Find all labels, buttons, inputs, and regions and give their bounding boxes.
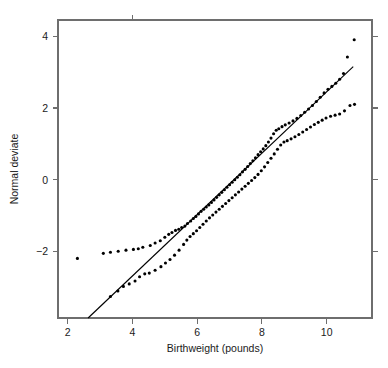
- y-tick-label: 4: [42, 30, 48, 42]
- x-tick-label: 8: [259, 326, 265, 338]
- data-point: [321, 119, 324, 122]
- data-series: [109, 103, 356, 298]
- data-point: [313, 123, 316, 126]
- x-tick-label: 4: [130, 326, 136, 338]
- data-point: [262, 147, 265, 150]
- data-point: [237, 190, 240, 193]
- data-point: [280, 125, 283, 128]
- data-point: [227, 199, 230, 202]
- data-point: [102, 252, 105, 255]
- x-axis-ticks: 246810: [65, 15, 333, 339]
- data-point: [211, 213, 214, 216]
- y-tick-label: −2: [36, 245, 48, 257]
- data-point: [284, 123, 287, 126]
- data-point: [178, 249, 181, 252]
- data-point: [133, 279, 136, 282]
- data-point: [208, 216, 211, 219]
- data-point: [128, 282, 131, 285]
- data-point: [159, 265, 162, 268]
- data-point: [164, 262, 167, 265]
- data-point: [338, 113, 341, 116]
- plot-frame: [58, 20, 372, 318]
- data-point: [205, 220, 208, 223]
- y-tick-label: 0: [42, 174, 48, 186]
- data-point: [137, 247, 140, 250]
- data-point: [201, 223, 204, 226]
- x-tick-label: 6: [194, 326, 200, 338]
- x-axis-title: Birthweight (pounds): [167, 342, 263, 354]
- reference-line-group: [88, 67, 353, 318]
- reference-line: [88, 67, 353, 318]
- data-point: [163, 236, 166, 239]
- data-point: [269, 137, 272, 140]
- data-series: [76, 38, 356, 260]
- data-point: [269, 157, 272, 160]
- x-tick-label: 10: [321, 326, 333, 338]
- data-point: [277, 127, 280, 130]
- data-point: [167, 233, 170, 236]
- data-point: [170, 231, 173, 234]
- data-point: [173, 254, 176, 257]
- y-axis-title: Normal deviate: [8, 134, 20, 205]
- data-point: [290, 137, 293, 140]
- data-point: [343, 109, 346, 112]
- data-point: [189, 235, 192, 238]
- data-point: [267, 141, 270, 144]
- data-point: [192, 232, 195, 235]
- data-point: [257, 173, 260, 176]
- data-point: [276, 148, 279, 151]
- data-point: [301, 130, 304, 133]
- plot-frame-rect: [58, 20, 372, 318]
- data-point: [288, 121, 291, 124]
- data-series-group: [76, 38, 356, 298]
- data-point: [279, 143, 282, 146]
- data-point: [266, 161, 269, 164]
- data-point: [148, 272, 151, 275]
- y-axis-ticks: −2024: [36, 30, 377, 257]
- data-point: [264, 144, 267, 147]
- y-tick-label: 2: [42, 102, 48, 114]
- data-point: [305, 128, 308, 131]
- data-point: [182, 243, 185, 246]
- data-point: [334, 114, 337, 117]
- data-point: [244, 185, 247, 188]
- data-point: [329, 115, 332, 118]
- data-point: [195, 229, 198, 232]
- data-point: [324, 116, 327, 119]
- data-point: [224, 202, 227, 205]
- data-point: [159, 239, 162, 242]
- data-point: [348, 104, 351, 107]
- data-point: [117, 250, 120, 253]
- data-point: [198, 226, 201, 229]
- data-point: [282, 141, 285, 144]
- data-point: [253, 176, 256, 179]
- data-point: [260, 169, 263, 172]
- data-point: [154, 269, 157, 272]
- chart-canvas: 246810 −2024 Birthweight (pounds) Normal…: [0, 0, 388, 368]
- data-point: [221, 205, 224, 208]
- data-point: [174, 229, 177, 232]
- data-point: [297, 133, 300, 136]
- data-point: [309, 125, 312, 128]
- x-tick-label: 2: [65, 326, 71, 338]
- data-point: [168, 258, 171, 261]
- data-point: [149, 244, 152, 247]
- data-point: [109, 251, 112, 254]
- data-point: [234, 193, 237, 196]
- data-point: [154, 241, 157, 244]
- data-point: [273, 152, 276, 155]
- data-point: [185, 239, 188, 242]
- data-point: [132, 248, 135, 251]
- data-point: [76, 257, 79, 260]
- data-point: [272, 132, 275, 135]
- data-point: [346, 55, 349, 58]
- normal-probability-plot-figure: 246810 −2024 Birthweight (pounds) Normal…: [0, 0, 388, 368]
- data-point: [141, 246, 144, 249]
- data-point: [218, 208, 221, 211]
- data-point: [231, 196, 234, 199]
- data-point: [124, 249, 127, 252]
- data-point: [240, 188, 243, 191]
- data-point: [214, 211, 217, 214]
- data-point: [250, 179, 253, 182]
- data-point: [353, 103, 356, 106]
